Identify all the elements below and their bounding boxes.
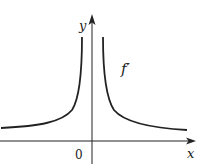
x-axis-label: x	[187, 146, 195, 161]
curve-label: f′	[120, 60, 131, 78]
origin-label: 0	[75, 148, 83, 162]
curve-right-branch	[103, 37, 187, 130]
y-axis-label: y	[78, 18, 87, 33]
curve-left-branch	[1, 37, 82, 128]
function-graph: y x 0 f′	[0, 0, 198, 164]
